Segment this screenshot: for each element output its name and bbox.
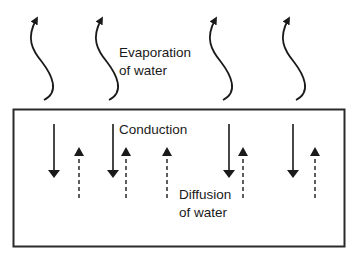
evaporation-arrow-icon [96,20,118,100]
diffusion-label-line2: of water [179,205,227,221]
evaporation-arrow-icon [31,20,53,100]
evaporation-arrow-icon [210,20,232,100]
evaporation-label-line2: of water [119,63,167,79]
diffusion-label-line1: Diffusion [179,187,231,203]
evaporation-label-line1: Evaporation [119,45,191,61]
evaporation-arrow-icon [283,20,305,100]
conduction-label: Conduction [119,122,187,138]
diffusion-arrow-heads [74,147,320,156]
